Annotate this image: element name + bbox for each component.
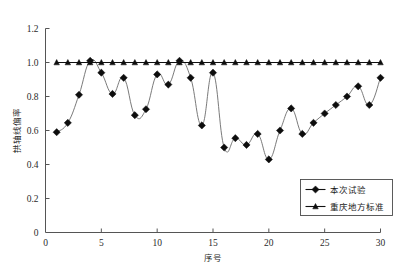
- data-point-test: [75, 91, 82, 98]
- y-axis-title: 拱轴线偏率: [12, 108, 22, 153]
- legend-label: 本次试验: [330, 185, 366, 195]
- x-tick-label: 15: [208, 238, 218, 248]
- x-tick-label: 20: [264, 238, 274, 248]
- data-point-test: [254, 130, 261, 137]
- data-point-test: [299, 130, 306, 137]
- data-point-test: [98, 69, 105, 76]
- data-point-test: [187, 74, 194, 81]
- y-tick-label: 1.2: [27, 24, 39, 34]
- y-tick-label: 1.0: [27, 58, 39, 68]
- x-tick-label: 25: [320, 238, 330, 248]
- data-point-test: [142, 106, 149, 113]
- data-point-test: [165, 81, 172, 88]
- legend-label: 重庆地方标准: [330, 202, 384, 212]
- data-point-test: [332, 101, 339, 108]
- data-point-test: [221, 144, 228, 151]
- series-line-test: [57, 59, 381, 159]
- x-tick-label: 0: [43, 238, 48, 248]
- x-tick-label: 5: [99, 238, 104, 248]
- y-tick-label: 0.6: [27, 126, 39, 136]
- legend: 本次试验重庆地方标准: [301, 180, 393, 216]
- y-tick-label: 0.8: [27, 92, 39, 102]
- data-point-test: [276, 127, 283, 134]
- x-axis-title: 序号: [204, 253, 222, 263]
- x-tick-label: 10: [152, 238, 162, 248]
- data-point-test: [53, 129, 60, 136]
- data-point-test: [64, 119, 71, 126]
- chart-container: 00.20.40.60.81.01.2 051015202530 拱轴线偏率 序…: [0, 0, 417, 275]
- data-point-test: [154, 71, 161, 78]
- data-point-test: [120, 74, 127, 81]
- y-tick-label: 0.4: [27, 160, 39, 170]
- y-axis-tick-labels: 00.20.40.60.81.01.2: [27, 24, 39, 238]
- x-tick-label: 30: [376, 238, 386, 248]
- y-tick-label: 0: [34, 228, 39, 238]
- x-axis-tick-marks: [101, 229, 380, 233]
- x-axis-tick-labels: 051015202530: [43, 238, 385, 248]
- data-point-test: [87, 57, 94, 64]
- y-axis-tick-marks: [46, 29, 50, 199]
- y-tick-label: 0.2: [27, 194, 39, 204]
- data-point-test: [377, 74, 384, 81]
- chart-plot: 00.20.40.60.81.01.2 051015202530 拱轴线偏率 序…: [0, 0, 417, 275]
